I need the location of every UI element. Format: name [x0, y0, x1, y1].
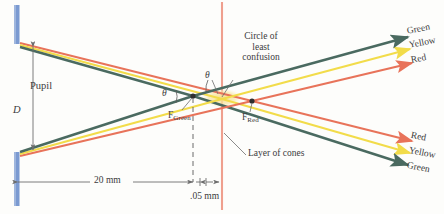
theta-lower-label: θ — [162, 88, 167, 99]
focus-red-label: FRed — [242, 112, 259, 125]
circle-of-least-confusion-label: Circle of least confusion — [224, 31, 298, 63]
layer-of-cones-label: Layer of cones — [248, 148, 304, 159]
pupil-upper-bar — [14, 5, 20, 44]
focus-green-subscript: Green — [173, 114, 191, 122]
focus-green-label: FGreen — [168, 110, 191, 123]
lower-red-ray — [20, 63, 412, 156]
coc-line-2: least — [224, 42, 298, 53]
coc-line-3: confusion — [224, 52, 298, 63]
pupil-diameter-label: D — [13, 104, 21, 116]
focus-red-subscript: Red — [247, 116, 259, 124]
layer-of-cones-leader — [224, 133, 246, 155]
focus-green-dot — [190, 93, 195, 98]
upper-red-ray — [20, 43, 412, 141]
theta-upper-label: θ — [205, 70, 210, 81]
diagram-canvas — [0, 0, 444, 214]
theta-lower-arc — [176, 90, 177, 103]
focus-red-dot — [249, 98, 254, 103]
optics-diagram: Pupil D Circle of least confusion Layer … — [0, 0, 444, 214]
focal-separation-label: .05 mm — [190, 191, 219, 202]
coc-line-1: Circle of — [224, 31, 298, 42]
axial-distance-label: 20 mm — [94, 175, 121, 186]
pupil-lower-bar — [14, 152, 20, 206]
pupil-label: Pupil — [30, 80, 52, 92]
focal-separation-dimension — [196, 178, 219, 186]
